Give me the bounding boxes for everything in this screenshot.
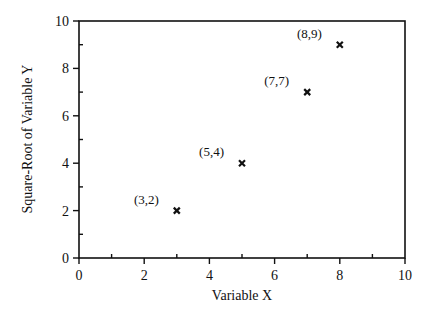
x-tick-label: 2 [141,268,148,283]
y-axis-title: Square-Root of Variable Y [20,65,35,214]
data-points: (3,2)(5,4)(7,7)(8,9) [134,26,343,214]
scatter-chart: 02468100246810 (3,2)(5,4)(7,7)(8,9) Vari… [0,0,430,316]
data-point: (5,4) [199,144,245,166]
point-label: (8,9) [297,26,322,41]
y-tick-label: 4 [62,156,69,171]
x-axis-title: Variable X [212,288,272,303]
data-point: (3,2) [134,192,180,214]
point-label: (5,4) [199,144,224,159]
point-label: (3,2) [134,192,159,207]
y-tick-label: 0 [62,251,69,266]
y-tick-label: 8 [62,61,69,76]
axis-tick-labels: 02468100246810 [55,14,412,283]
data-point: (7,7) [264,73,310,95]
x-tick-label: 6 [271,268,278,283]
x-tick-label: 0 [76,268,83,283]
x-tick-label: 4 [206,268,213,283]
y-tick-label: 2 [62,204,69,219]
x-tick-label: 8 [336,268,343,283]
point-label: (7,7) [264,73,289,88]
x-tick-label: 10 [398,268,412,283]
y-tick-label: 10 [55,14,69,29]
y-tick-label: 6 [62,109,69,124]
plot-frame [79,21,405,258]
data-point: (8,9) [297,26,343,48]
axis-ticks [73,21,405,264]
